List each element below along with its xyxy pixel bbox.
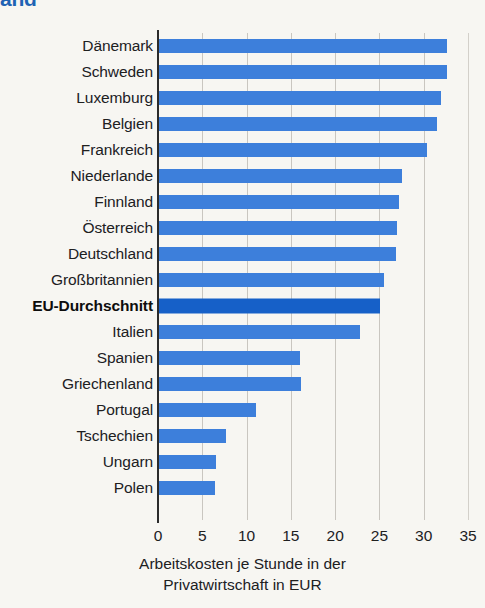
bar-row: Frankreich xyxy=(0,137,485,163)
bar-row: Deutschland xyxy=(0,241,485,267)
x-tick-label: 15 xyxy=(282,527,299,545)
bar-row: Portugal xyxy=(0,397,485,423)
bar xyxy=(159,247,396,261)
bar-row: Finnland xyxy=(0,189,485,215)
bar-chart: DänemarkSchwedenLuxemburgBelgienFrankrei… xyxy=(0,0,485,608)
category-label: Portugal xyxy=(96,401,153,419)
bar-row: Spanien xyxy=(0,345,485,371)
category-label: Finnland xyxy=(94,193,153,211)
category-label: Niederlande xyxy=(71,167,154,185)
bar xyxy=(159,39,447,53)
category-label: Belgien xyxy=(102,115,153,133)
x-tick-label: 5 xyxy=(198,527,207,545)
x-tick-label: 30 xyxy=(415,527,432,545)
bar-row: Griechenland xyxy=(0,371,485,397)
category-label: Österreich xyxy=(83,219,154,237)
bar xyxy=(159,143,427,157)
bar xyxy=(159,169,402,183)
category-label: Deutschland xyxy=(68,245,153,263)
x-tick-label: 25 xyxy=(371,527,388,545)
bar xyxy=(159,273,384,287)
x-axis-ticks: 05101520253035 xyxy=(158,527,468,549)
category-label: Luxemburg xyxy=(76,89,153,107)
bar xyxy=(159,325,360,339)
bar-row: Belgien xyxy=(0,111,485,137)
bar-highlight xyxy=(159,299,380,314)
category-label: Polen xyxy=(114,479,153,497)
bar-row: Dänemark xyxy=(0,33,485,59)
bar xyxy=(159,481,215,495)
category-label: Spanien xyxy=(97,349,153,367)
category-label: Tschechien xyxy=(76,427,153,445)
bar xyxy=(159,455,216,469)
category-label: Italien xyxy=(112,323,153,341)
bar xyxy=(159,117,437,131)
category-label: Großbritannien xyxy=(51,271,153,289)
bar-row: Luxemburg xyxy=(0,85,485,111)
x-tick-label: 0 xyxy=(154,527,163,545)
bar-row: Großbritannien xyxy=(0,267,485,293)
bar xyxy=(159,195,399,209)
bar-row: Polen xyxy=(0,475,485,501)
bar-row: Italien xyxy=(0,319,485,345)
x-tick-label: 10 xyxy=(238,527,255,545)
bar xyxy=(159,351,300,365)
bar xyxy=(159,221,397,235)
bar-row: Niederlande xyxy=(0,163,485,189)
x-tick-label: 20 xyxy=(327,527,344,545)
x-axis-label-line: Arbeitskosten je Stunde in der xyxy=(0,553,485,574)
bar xyxy=(159,377,301,391)
bar-row: Ungarn xyxy=(0,449,485,475)
category-label: Griechenland xyxy=(62,375,153,393)
category-label: EU-Durchschnitt xyxy=(32,297,153,315)
bar-row: Tschechien xyxy=(0,423,485,449)
category-label: Dänemark xyxy=(82,37,153,55)
bar-row: EU-Durchschnitt xyxy=(0,293,485,319)
x-axis-label: Arbeitskosten je Stunde in derPrivatwirt… xyxy=(0,553,485,596)
bar xyxy=(159,91,441,105)
category-label: Ungarn xyxy=(103,453,153,471)
bar xyxy=(159,65,447,79)
category-label: Schweden xyxy=(81,63,153,81)
bar-row: Schweden xyxy=(0,59,485,85)
x-tick-label: 35 xyxy=(459,527,476,545)
category-label: Frankreich xyxy=(81,141,153,159)
x-axis-label-line: Privatwirtschaft in EUR xyxy=(0,574,485,595)
bar-row: Österreich xyxy=(0,215,485,241)
bar xyxy=(159,429,226,443)
bar xyxy=(159,403,256,417)
bar-rows: DänemarkSchwedenLuxemburgBelgienFrankrei… xyxy=(0,33,485,501)
